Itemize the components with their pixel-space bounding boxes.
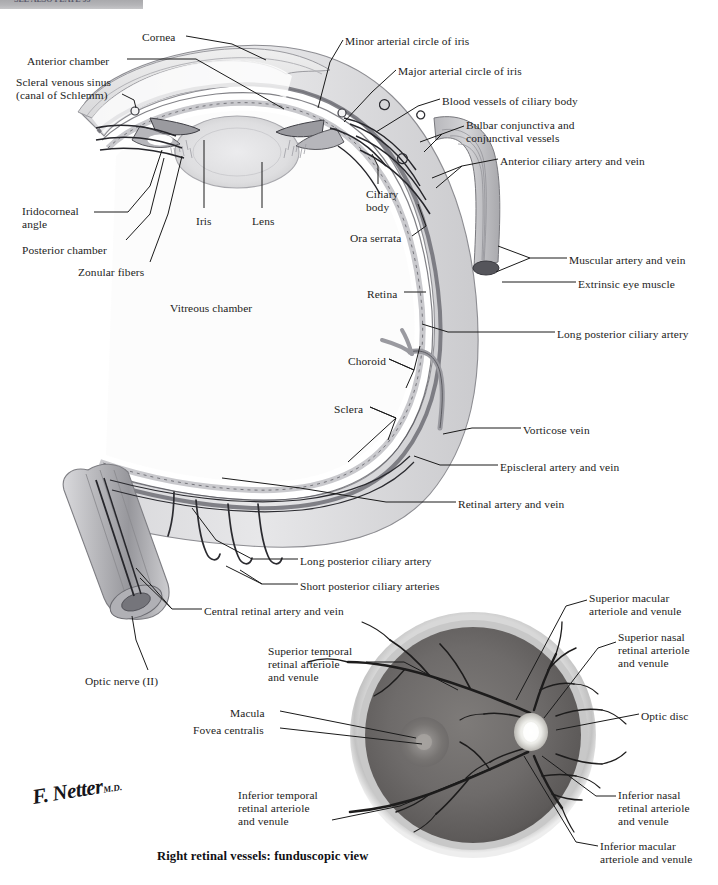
label-fovea-centralis: Fovea centralis [193,724,264,737]
label-retinal-artery-vein: Retinal artery and vein [458,498,564,511]
label-iridocorneal-angle: Iridocorneal angle [22,205,79,231]
signature-suffix: M.D. [102,782,122,795]
label-scleral-venous-sinus: Scleral venous sinus (canal of Schlemm) [16,76,111,102]
label-zonular-fibers: Zonular fibers [78,266,144,279]
label-ciliary-body: Ciliary body [366,188,398,214]
eye-anatomy-artwork [0,0,718,885]
label-optic-disc: Optic disc [641,710,689,723]
scleral-venous-sinus-marker [131,107,139,115]
label-superior-macular: Superior macular arteriole and venule [589,592,681,618]
label-anterior-chamber: Anterior chamber [27,55,109,68]
eye-cross-section [63,45,500,625]
funduscopic-view [308,612,626,858]
label-anterior-ciliary: Anterior ciliary artery and vein [500,155,645,168]
label-vitreous-chamber: Vitreous chamber [170,302,252,315]
label-extrinsic-eye-muscle: Extrinsic eye muscle [578,278,675,291]
label-posterior-chamber: Posterior chamber [22,244,107,257]
label-lens: Lens [252,215,275,228]
label-optic-nerve: Optic nerve (II) [85,675,158,688]
label-major-arterial-circle: Major arterial circle of iris [398,65,522,78]
muscle-cut-end [473,261,499,275]
label-blood-vessels-ciliary: Blood vessels of ciliary body [442,95,578,108]
label-inferior-temporal: Inferior temporal retinal arteriole and … [238,789,318,829]
fovea-centralis-area [416,734,432,750]
label-long-post-ciliary-a2: Long posterior ciliary artery [300,555,432,568]
label-retina: Retina [367,288,397,301]
label-inferior-macular: Inferior macular arteriole and venule [600,840,692,866]
label-superior-temporal: Superior temporal retinal arteriole and … [268,645,352,685]
label-vorticose-vein: Vorticose vein [523,424,590,437]
label-superior-nasal: Superior nasal retinal arteriole and ven… [618,631,690,671]
label-minor-arterial-circle: Minor arterial circle of iris [345,35,469,48]
label-inferior-nasal: Inferior nasal retinal arteriole and ven… [618,789,690,829]
label-central-retinal-av: Central retinal artery and vein [204,605,344,618]
fundus-retina [365,627,581,843]
figure-caption: Right retinal vessels: funduscopic view [157,849,368,864]
label-episcleral-artery-vein: Episcleral artery and vein [500,461,619,474]
label-choroid: Choroid [348,355,386,368]
label-macula: Macula [230,707,265,720]
label-ora-serrata: Ora serrata [350,232,401,245]
label-bulbar-conjunctiva: Bulbar conjunctiva and conjunctival vess… [466,119,574,145]
label-long-post-ciliary-a: Long posterior ciliary artery [557,328,689,341]
plate-page: SEE ALSO PLATE 95 [0,0,718,885]
label-iris: Iris [196,215,212,228]
optic-cup [523,722,539,742]
label-muscular-artery-vein: Muscular artery and vein [569,254,686,267]
scleral-venous-sinus-marker-right [338,109,346,117]
label-sclera: Sclera [334,403,363,416]
label-short-post-ciliary-a: Short posterior ciliary arteries [300,580,440,593]
label-cornea: Cornea [142,31,176,44]
